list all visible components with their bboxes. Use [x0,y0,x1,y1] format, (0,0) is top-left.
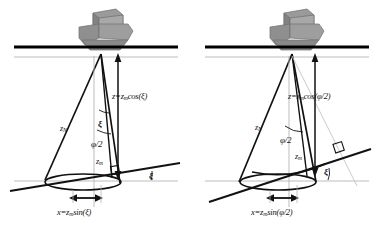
panel-right: z=zmcos(φ/2) zN φ/2 zm ξ x=zmsin(φ/2) [191,0,382,234]
figure-container: z=zmcos(ξ) zN ξ φ/2 zm ξ x=zmsin(ξ) [0,0,382,234]
offset-formula-left: x=zmsin(ξ) [57,208,91,218]
sloped-seafloor-line [209,149,371,202]
slant-range-label-right: zN [255,124,261,133]
min-range-label-left: zm [96,158,103,167]
offset-formula-right: x=zmsin(φ/2) [251,208,292,218]
depth-formula-left: z=zmcos(ξ) [112,92,147,102]
depth-arrow [115,53,122,180]
offset-formula-tail-left: sin(ξ) [73,207,91,217]
depth-formula-right: z=zmcos(φ/2) [288,92,330,102]
beam-angle-phi-label-left: φ/2 [91,140,102,149]
slant-range-sub-left: N [63,127,66,133]
beam-angle-xi-label-left: ξ [98,120,102,129]
min-range-sub-left: m [99,160,103,166]
min-range-label-right: zm [295,153,302,162]
seafloor-angle-arc [328,168,330,180]
panel-right-graphics [191,0,382,234]
depth-arrow [312,53,319,177]
seafloor-angle-label-left: ξ [149,172,153,181]
beam-edge-left [45,54,101,180]
beam-angle-arc-2 [97,130,111,134]
beam-footprint-ellipse [45,174,121,190]
beam-angle-phi-label-right: φ/2 [280,136,291,145]
beam-edge-right [292,54,316,182]
right-angle-marker [333,142,344,153]
panel-left: z=zmcos(ξ) zN ξ φ/2 zm ξ x=zmsin(ξ) [0,0,191,234]
ship-icon [270,9,324,50]
offset-formula-tail-right: sin(φ/2) [267,207,292,217]
slant-range-label-left: zN [60,125,66,134]
sloped-seafloor-line [10,163,180,191]
offset-arrow [69,185,103,203]
beam-edge-left [239,54,292,182]
ship-icon [79,9,133,50]
offset-arrow [266,185,299,203]
depth-formula-tail-left: cos(ξ) [128,91,147,101]
min-range-sub-right: m [298,155,302,161]
seafloor-angle-label-right: ξ [324,168,328,177]
panel-left-graphics [0,0,191,234]
depth-formula-tail-right: cos(φ/2) [304,91,331,101]
slant-range-sub-right: N [258,126,261,132]
beam-angle-arc-1 [99,110,109,113]
